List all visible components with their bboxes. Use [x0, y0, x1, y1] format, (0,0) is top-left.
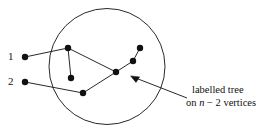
tree-edges	[25, 48, 140, 93]
edge-nodec-noded	[83, 72, 116, 93]
node-c-dot	[80, 90, 86, 96]
arrow-head-icon	[131, 76, 140, 83]
diagram-canvas	[0, 0, 271, 137]
caption-line-2: on n − 2 vertices	[186, 96, 271, 109]
caption-line-1: labelled tree	[186, 83, 271, 96]
node-d-dot	[113, 69, 119, 75]
annotation-arrow	[131, 76, 187, 98]
node-b-dot	[68, 75, 74, 81]
node-a-dot	[65, 45, 71, 51]
node-e-dot	[130, 58, 136, 64]
vertex-2-label: 2	[8, 76, 14, 87]
tree-vertices	[22, 45, 143, 96]
edge-nodea-noded	[68, 48, 116, 72]
vertex-1-dot	[22, 54, 28, 60]
vertex-2-dot	[22, 79, 28, 85]
edge-vertex1-nodea	[25, 48, 68, 57]
enclosing-circle	[49, 9, 165, 125]
edge-nodea-nodeb	[68, 48, 71, 78]
caption-prefix: on	[186, 97, 199, 108]
labelled-tree-figure: 1 2 labelled tree on n − 2 vertices	[0, 0, 271, 137]
vertex-1-label: 1	[8, 51, 14, 62]
caption-suffix: − 2 vertices	[204, 97, 256, 108]
node-f-dot	[137, 45, 143, 51]
arrow-shaft	[133, 77, 187, 98]
edge-vertex2-nodec	[25, 82, 83, 93]
caption-text: labelled tree on n − 2 vertices	[186, 83, 271, 109]
